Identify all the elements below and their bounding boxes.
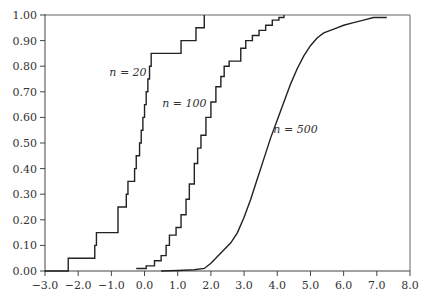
series-label-1: n = 20: [109, 66, 146, 79]
ecdf-chart: 0.000.100.200.300.400.500.600.700.800.90…: [0, 0, 427, 307]
series-labels: n = 20n = 100n = 500: [109, 66, 317, 135]
x-tick-label: −2.0: [65, 279, 92, 292]
x-axis: −3.0−2.0−1.00.01.02.03.04.05.06.07.08.0: [32, 271, 419, 292]
series-line-1: [45, 15, 204, 271]
y-tick-label: 0.50: [13, 137, 38, 150]
x-tick-label: −1.0: [98, 279, 125, 292]
y-tick-label: 0.20: [13, 214, 38, 227]
y-tick-label: 1.00: [13, 9, 38, 22]
y-tick-label: 0.40: [13, 163, 38, 176]
series-line-3: [161, 18, 387, 271]
chart-canvas: 0.000.100.200.300.400.500.600.700.800.90…: [0, 0, 427, 307]
x-tick-label: −3.0: [32, 279, 59, 292]
y-tick-label: 0.30: [13, 188, 38, 201]
series-label-2: n = 100: [162, 97, 206, 110]
series-layer: [45, 15, 387, 271]
y-tick-label: 0.70: [13, 86, 38, 99]
x-tick-label: 2.0: [202, 279, 220, 292]
x-tick-label: 1.0: [169, 279, 187, 292]
x-tick-label: 0.0: [136, 279, 154, 292]
y-axis: 0.000.100.200.300.400.500.600.700.800.90…: [13, 9, 46, 278]
x-tick-label: 3.0: [235, 279, 253, 292]
x-tick-label: 8.0: [401, 279, 419, 292]
y-tick-label: 0.00: [13, 265, 38, 278]
x-tick-label: 5.0: [302, 279, 320, 292]
y-tick-label: 0.80: [13, 60, 38, 73]
y-tick-label: 0.10: [13, 239, 38, 252]
x-tick-label: 7.0: [368, 279, 386, 292]
x-tick-label: 6.0: [335, 279, 353, 292]
y-tick-label: 0.60: [13, 111, 38, 124]
x-tick-label: 4.0: [269, 279, 287, 292]
series-label-3: n = 500: [273, 123, 317, 136]
y-tick-label: 0.90: [13, 35, 38, 48]
